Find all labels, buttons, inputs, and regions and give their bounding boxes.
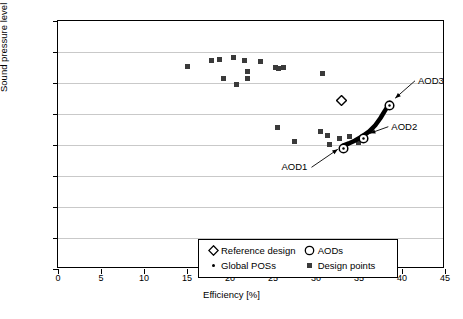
x-axis-tick-label: 0 [43,274,73,283]
annotation-arrows [58,21,445,269]
legend-label: Global POSs [221,261,276,271]
diamond-marker-icon [205,245,221,256]
chart-legend: Reference design AODs Global POS [198,239,398,278]
legend-item-aods: AODs [302,245,391,256]
annotation-arrow-head [370,129,376,133]
annotation-label-aod3: AOD3 [418,76,444,86]
annotation-label-aod2: AOD2 [391,122,417,132]
legend-row: Global POSs Design points [205,258,391,273]
legend-item-design-points: Design points [302,261,391,271]
square-marker-icon [302,263,318,268]
legend-item-global-poss: Global POSs [205,261,302,271]
legend-label: AODs [318,246,343,256]
y-axis-title: Sound pressure level [dB] [0,0,9,92]
scatter-chart-figure: Sound pressure level [dB] Efficiency [%]… [0,0,463,319]
x-axis-tick-label: 5 [86,274,116,283]
legend-row: Reference design AODs [205,243,391,258]
dot-marker-icon [205,264,221,267]
x-axis-tick-label: 45 [430,274,460,283]
annotation-label-aod1: AOD1 [282,162,308,172]
circle-marker-icon [302,245,318,256]
legend-label: Design points [318,261,376,271]
x-axis-tick-label: 10 [129,274,159,283]
legend-item-reference-design: Reference design [205,245,302,256]
x-axis-title: Efficiency [%] [0,289,463,300]
legend-label: Reference design [221,246,295,256]
plot-area: 60708090100110120130140 0510152025303540… [57,20,444,268]
annotation-arrow-head [332,149,338,154]
